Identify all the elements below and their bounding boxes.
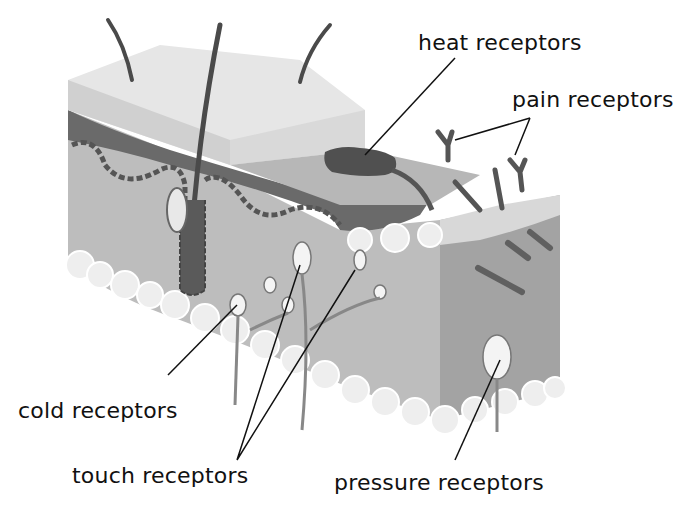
label-heat-receptors: heat receptors <box>418 30 582 55</box>
label-touch-receptors: touch receptors <box>72 463 248 488</box>
label-pressure-receptors: pressure receptors <box>334 470 544 495</box>
pain-leader <box>455 118 530 155</box>
sebaceous-gland <box>167 188 187 232</box>
heat-receptor <box>324 147 396 176</box>
skin-receptors-diagram: heat receptors pain receptors cold recep… <box>0 0 688 517</box>
label-pain-receptors: pain receptors <box>512 87 674 112</box>
label-cold-receptors: cold receptors <box>18 398 178 423</box>
